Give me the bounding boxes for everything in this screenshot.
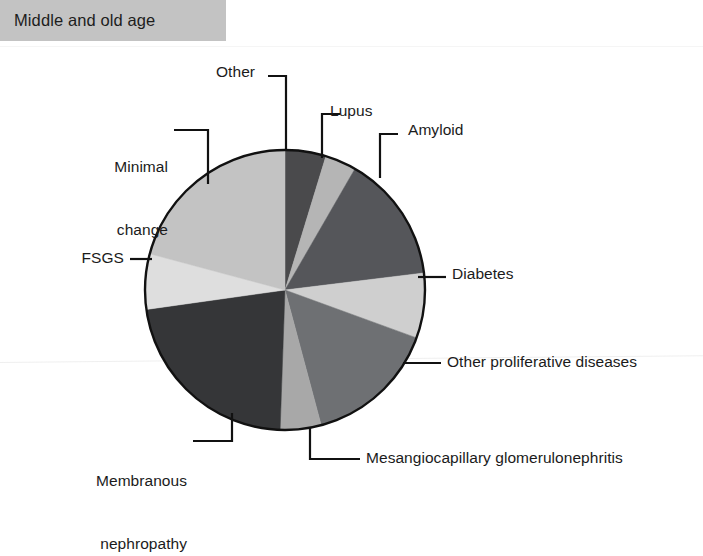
slice-label-other-proliferative: Other proliferative diseases <box>447 352 637 372</box>
pie-slice-group <box>145 150 425 430</box>
slice-label-amyloid: Amyloid <box>408 120 463 140</box>
leader-line-amyloid <box>380 134 398 178</box>
leader-line-mesangiocapillary <box>310 427 360 459</box>
slice-label-minimal-line1: Minimal <box>72 156 168 177</box>
slice-label-membranous-line2: nephropathy <box>41 533 187 554</box>
slice-label-minimal-change: Minimal change <box>72 114 168 282</box>
slice-label-mesangiocapillary: Mesangiocapillary glomerulonephritis <box>366 448 623 468</box>
slice-label-diabetes: Diabetes <box>452 264 514 284</box>
slice-label-other: Other <box>216 62 255 82</box>
slice-label-minimal-line2: change <box>72 219 168 240</box>
slice-label-membranous-nephropathy: Membranous nephropathy <box>41 428 187 556</box>
slice-label-membranous-line1: Membranous <box>41 470 187 491</box>
pie-slice <box>146 290 285 430</box>
leader-line-other <box>268 76 286 150</box>
slice-label-lupus: Lupus <box>330 101 372 121</box>
